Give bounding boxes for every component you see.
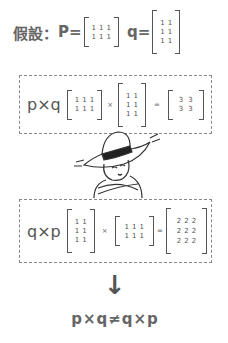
matrix-cell: 1	[126, 101, 130, 109]
equation-label: p×q	[27, 95, 61, 114]
matrix-cell: 1	[99, 24, 103, 32]
matrix-cell: 1	[90, 105, 94, 113]
matrix-cell: 1	[126, 110, 130, 118]
matrix-cell: 3	[188, 96, 192, 104]
matrix-cell: 1	[168, 28, 172, 36]
matrix-cell: 2	[184, 237, 188, 245]
matrix-cell: 1	[160, 28, 164, 36]
right-matrix: 111111	[118, 83, 146, 127]
left-matrix: 111111	[67, 209, 95, 253]
result-matrix: 3333	[168, 90, 204, 120]
times-sign: ×	[102, 227, 108, 235]
matrix-cell: 1	[75, 105, 79, 113]
down-arrow-icon: ↓	[104, 272, 126, 298]
matrix-cell: 2	[192, 227, 196, 235]
matrix-cell: 1	[82, 227, 86, 235]
matrix-cell: 2	[177, 227, 181, 235]
matrix-cell: 1	[132, 223, 136, 231]
matrix-cell: 1	[107, 33, 111, 41]
right-matrix: 111111	[115, 216, 154, 246]
matrix-cell: 2	[177, 237, 181, 245]
equation-label: q×p	[27, 222, 61, 241]
equation-pxq-box: p×q 111111 × 111111 = 3333	[19, 75, 212, 134]
matrix-cell: 1	[132, 232, 136, 240]
matrix-cell: 1	[82, 218, 86, 226]
matrix-cell: 1	[75, 227, 79, 235]
matrix-cell: 1	[82, 96, 86, 104]
q-matrix: 111111	[152, 10, 180, 54]
matrix-cell: 1	[160, 37, 164, 45]
matrix-cell: 1	[125, 232, 129, 240]
puzzled-man-illustration	[72, 128, 162, 198]
matrix-cell: 1	[160, 19, 164, 27]
equals-sign: =	[154, 101, 160, 109]
matrix-cell: 1	[82, 105, 86, 113]
matrix-cell: 1	[133, 101, 137, 109]
matrix-cell: 1	[133, 110, 137, 118]
matrix-cell: 1	[82, 236, 86, 244]
matrix-cell: 1	[92, 33, 96, 41]
matrix-cell: 2	[192, 217, 196, 225]
matrix-cell: 1	[126, 92, 130, 100]
conclusion-text: p×q≠q×p	[60, 310, 170, 328]
matrix-cell: 2	[184, 227, 188, 235]
matrix-cell: 3	[188, 105, 192, 113]
equation-qxp-box: q×p 111111 × 111111 = 222222222	[19, 199, 212, 263]
matrix-cell: 2	[177, 217, 181, 225]
p-matrix: 111111	[84, 17, 119, 47]
matrix-cell: 3	[179, 96, 183, 104]
matrix-cell: 1	[139, 232, 143, 240]
matrix-cell: 2	[192, 237, 196, 245]
matrix-cell: 1	[168, 19, 172, 27]
result-matrix: 222222222	[166, 208, 207, 254]
q-label: q=	[127, 23, 150, 41]
hypothesis-row: 假設： P= 111111 q= 111111	[13, 12, 182, 52]
matrix-cell: 1	[99, 33, 103, 41]
left-matrix: 111111	[67, 90, 102, 120]
matrix-cell: 3	[179, 105, 183, 113]
matrix-cell: 1	[168, 37, 172, 45]
matrix-cell: 1	[133, 92, 137, 100]
matrix-cell: 1	[75, 218, 79, 226]
matrix-cell: 1	[107, 24, 111, 32]
matrix-cell: 2	[184, 217, 188, 225]
times-sign: ×	[107, 101, 113, 109]
matrix-cell: 1	[139, 223, 143, 231]
matrix-cell: 1	[75, 236, 79, 244]
matrix-cell: 1	[90, 96, 94, 104]
equals-sign: =	[157, 227, 163, 235]
matrix-cell: 1	[75, 96, 79, 104]
matrix-cell: 1	[125, 223, 129, 231]
p-label: P=	[58, 23, 82, 41]
matrix-cell: 1	[92, 24, 96, 32]
hypothesis-prefix: 假設：	[13, 22, 58, 43]
